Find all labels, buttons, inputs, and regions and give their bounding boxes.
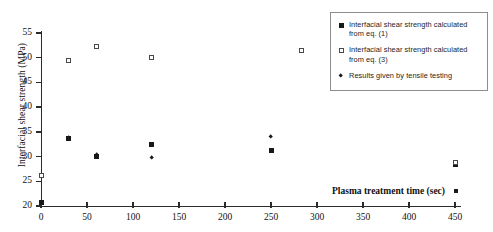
legend-entry: Interfacial shear strength calculatedfro… [337, 45, 482, 63]
x-tick-label: 50 [67, 212, 107, 222]
data-point [299, 48, 304, 53]
data-point [149, 155, 154, 160]
data-point [149, 142, 154, 147]
x-tick-label: 400 [389, 212, 429, 222]
data-point [39, 173, 44, 178]
data-point [66, 58, 71, 63]
legend-marker-filled-square-icon [337, 20, 349, 30]
marker-glyph [339, 23, 344, 28]
legend-label: Interfacial shear strength calculatedfro… [349, 20, 468, 38]
y-tick-label: 55 [8, 28, 32, 38]
legend-label-line2: from eq. (1) [349, 29, 468, 38]
x-tick [270, 202, 271, 208]
x-tick-label: 100 [113, 212, 153, 222]
x-tick [86, 202, 87, 208]
data-point [94, 44, 99, 49]
x-tick-label: 0 [21, 212, 61, 222]
x-tick [454, 202, 455, 208]
y-tick-label: 40 [8, 102, 32, 112]
x-tick [408, 202, 409, 208]
data-point [149, 55, 154, 60]
x-tick-label: 150 [159, 212, 199, 222]
y-tick [36, 181, 42, 182]
y-tick [36, 32, 42, 33]
x-tick [316, 202, 317, 208]
x-tick-label: 450 [435, 212, 475, 222]
data-point [269, 148, 274, 153]
legend-label-line2: from eq. (3) [349, 55, 468, 64]
x-axis-line [41, 206, 461, 207]
marker-glyph [339, 48, 344, 53]
y-tick-label: 50 [8, 53, 32, 63]
legend-entry: Results given by tensile testing [337, 71, 482, 81]
marker-glyph [339, 73, 344, 78]
x-tick-label: 350 [343, 212, 383, 222]
legend-marker-diamond-icon [337, 71, 349, 81]
x-tick-label: 250 [251, 212, 291, 222]
y-tick-label: 45 [8, 77, 32, 87]
scatter-chart: Interfacial shear strength (MPa) Plasma … [0, 0, 493, 232]
x-tick-label: 300 [297, 212, 337, 222]
legend-entry: Interfacial shear strength calculatedfro… [337, 20, 482, 38]
x-tick [132, 202, 133, 208]
y-tick-label: 20 [8, 201, 32, 211]
x-tick-label: 200 [205, 212, 245, 222]
legend-label: Interfacial shear strength calculatedfro… [349, 45, 468, 63]
legend-label-line1: Results given by tensile testing [349, 71, 452, 80]
y-tick [36, 57, 42, 58]
x-tick [178, 202, 179, 208]
x-axis-title-marker [454, 189, 458, 193]
data-point [269, 134, 274, 139]
y-tick [36, 82, 42, 83]
x-tick [224, 202, 225, 208]
x-axis-title: Plasma treatment time (sec) [332, 186, 445, 196]
y-tick-label: 30 [8, 152, 32, 162]
y-tick [36, 131, 42, 132]
y-tick [36, 156, 42, 157]
data-point [453, 160, 458, 165]
legend-label-line1: Interfacial shear strength calculated [349, 20, 468, 29]
y-tick-label: 25 [8, 176, 32, 186]
legend-label: Results given by tensile testing [349, 71, 452, 80]
y-tick-label: 35 [8, 127, 32, 137]
chart-legend: Interfacial shear strength calculatedfro… [330, 12, 488, 91]
legend-marker-open-square-icon [337, 45, 349, 55]
data-point [39, 200, 44, 205]
y-tick [36, 106, 42, 107]
legend-label-line1: Interfacial shear strength calculated [349, 45, 468, 54]
x-tick [362, 202, 363, 208]
